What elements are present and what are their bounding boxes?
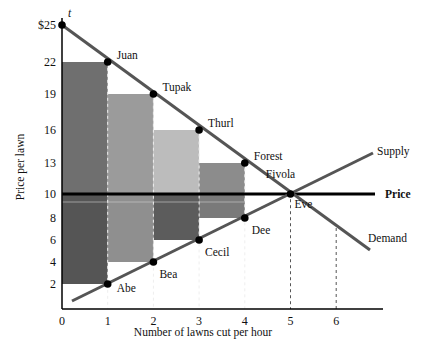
x-axis-title: Number of lawns cut per hour	[134, 326, 272, 339]
supply-label: Supply	[377, 145, 410, 158]
producer-surplus-bar	[153, 194, 199, 240]
x-tick-label: 5	[288, 314, 294, 328]
y-tick-label: $25	[38, 18, 56, 32]
y-tick-label: 13	[44, 156, 56, 170]
point-label: Tupak	[162, 81, 191, 94]
demand-point	[241, 159, 249, 167]
consumer-surplus-bar	[108, 94, 154, 194]
point-label: Abe	[117, 282, 136, 294]
demand-point	[195, 126, 203, 134]
y-tick-label: 22	[44, 55, 56, 69]
consumer-surplus-bar	[199, 163, 245, 194]
point-label: Fivola	[266, 168, 295, 180]
point-label: Dee	[252, 224, 271, 236]
supply-point	[150, 258, 158, 266]
point-label: Forest	[254, 150, 284, 162]
y-tick-label: 8	[50, 211, 56, 225]
point-label: t	[68, 7, 72, 19]
producer-surplus-bar	[62, 194, 108, 284]
point-label: Cecil	[205, 246, 229, 258]
x-tick-label: 0	[59, 314, 65, 328]
point-label: Eve	[295, 198, 313, 210]
demand-point	[104, 58, 112, 66]
consumer-producer-surplus-chart: 24681013161922$25 0123456 tJuanTupakThur…	[0, 0, 428, 355]
supply-point	[104, 280, 112, 288]
supply-point	[195, 236, 203, 244]
point-label: Juan	[117, 49, 138, 61]
producer-surplus-bar	[199, 194, 245, 218]
consumer-surplus-bar	[153, 130, 199, 194]
y-tick-label: 19	[44, 87, 56, 101]
y-tick-label: 4	[50, 255, 56, 269]
point-label: Bea	[159, 268, 177, 280]
y-tick-label: 2	[50, 277, 56, 291]
y-axis-ticks: 24681013161922$25	[38, 18, 56, 291]
y-tick-label: 10	[44, 187, 56, 201]
y-axis-title: Price per lawn	[14, 134, 27, 201]
demand-point	[58, 21, 66, 29]
consumer-surplus-bar	[62, 62, 108, 194]
demand-point	[287, 190, 295, 198]
supply-point	[241, 214, 249, 222]
demand-point	[150, 90, 158, 98]
x-tick-label: 6	[333, 314, 339, 328]
price-label: Price	[385, 188, 411, 200]
demand-label: Demand	[368, 232, 407, 244]
y-tick-label: 16	[44, 123, 56, 137]
point-label: Thurl	[208, 117, 234, 129]
x-tick-label: 1	[105, 314, 111, 328]
producer-surplus-bar	[108, 194, 154, 262]
y-tick-label: 6	[50, 233, 56, 247]
